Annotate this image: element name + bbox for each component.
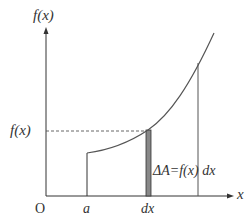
level-label: f(x) xyxy=(10,123,31,138)
y-axis-arrow-icon xyxy=(44,27,49,34)
y-axis-label: f(x) xyxy=(33,8,54,23)
area-label: ΔA=f(x) dx xyxy=(153,164,215,178)
a-label: a xyxy=(83,202,90,216)
x-axis-arrow-icon xyxy=(227,194,234,199)
origin-label: O xyxy=(35,202,45,216)
x-axis-label: x xyxy=(237,187,244,202)
dx-label: dx xyxy=(141,202,154,216)
dx-strip xyxy=(146,130,151,196)
integral-area-diagram xyxy=(0,0,249,221)
